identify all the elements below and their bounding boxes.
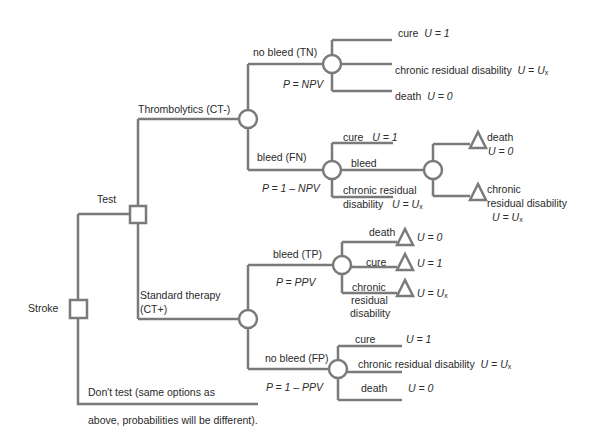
fp-death-label: death bbox=[361, 382, 387, 394]
tp-cure-utility: U = 1 bbox=[417, 257, 442, 269]
tp-cure-terminal bbox=[397, 254, 413, 270]
tp-chance-node bbox=[333, 256, 351, 274]
fn-bleed-crd-utility-text: U = U bbox=[492, 211, 519, 223]
tn-cure-label: cure U = 1 bbox=[398, 27, 450, 39]
tn-cure-text: cure bbox=[398, 27, 418, 39]
tp-death-label: death bbox=[369, 226, 395, 238]
fp-crd-text: chronic residual disability bbox=[358, 358, 475, 370]
tn-cure-utility: U = 1 bbox=[424, 27, 449, 39]
tn-chance-node bbox=[323, 55, 341, 73]
fn-death-terminal bbox=[470, 132, 486, 148]
tn-probability: P = NPV bbox=[283, 78, 323, 90]
standard-label-line2: (CT+) bbox=[140, 303, 167, 315]
fp-crd-label: chronic residual disability U = Ux bbox=[358, 358, 511, 373]
fp-crd-utility: U = U bbox=[481, 358, 508, 370]
tn-crd-label: chronic residual disability U = Ux bbox=[395, 64, 548, 79]
stroke-trunk bbox=[78, 214, 258, 404]
tp-death-terminal bbox=[397, 229, 413, 245]
tn-death-text: death bbox=[395, 90, 421, 102]
stroke-decision-node bbox=[70, 300, 87, 318]
dont-test-line2: above, probabilities will be different). bbox=[88, 414, 258, 426]
subscript-x: x bbox=[508, 363, 512, 370]
fn-bleed-crd-line2: residual disability bbox=[487, 197, 567, 209]
tp-cure-label: cure bbox=[366, 256, 386, 268]
tp-crd-utility-text: U = U bbox=[417, 287, 444, 299]
stroke-label: Stroke bbox=[28, 302, 58, 314]
tp-crd-line3: disability bbox=[350, 307, 390, 319]
tp-label: bleed (TP) bbox=[273, 248, 322, 260]
fn-crd-terminal bbox=[470, 184, 486, 200]
fp-probability: P = 1 – PPV bbox=[266, 381, 323, 393]
fp-cure-label: cure bbox=[355, 333, 375, 345]
test-decision-node bbox=[130, 206, 146, 223]
fn-crd-line1: chronic residual bbox=[343, 184, 417, 196]
fn-bleed-label: bleed bbox=[351, 157, 377, 169]
thrombolytics-label: Thrombolytics (CT-) bbox=[138, 103, 230, 115]
fn-crd-utility: U = U bbox=[392, 198, 419, 210]
dont-test-line1: Don't test (same options as bbox=[88, 386, 215, 398]
tn-death-label: death U = 0 bbox=[395, 90, 453, 102]
fn-probability: P = 1 – NPV bbox=[262, 182, 320, 194]
tp-death-utility: U = 0 bbox=[417, 231, 442, 243]
fn-chance-node bbox=[323, 161, 341, 179]
subscript-x: x bbox=[444, 292, 448, 299]
subscript-x: x bbox=[545, 69, 549, 76]
standard-label-line1: Standard therapy bbox=[140, 289, 221, 301]
subscript-x: x bbox=[519, 216, 523, 223]
fn-cure-label: cure U = 1 bbox=[343, 131, 398, 143]
fn-cure-utility: U = 1 bbox=[372, 131, 397, 143]
thrombolytics-chance-node bbox=[239, 110, 257, 128]
tn-crd-utility: U = U bbox=[518, 64, 545, 76]
tp-crd-utility: U = Ux bbox=[417, 287, 448, 302]
fn-label: bleed (FN) bbox=[257, 151, 307, 163]
fp-death-utility: U = 0 bbox=[408, 382, 433, 394]
tn-label: no bleed (TN) bbox=[253, 46, 317, 58]
fn-bleed-death-label: death bbox=[487, 131, 513, 143]
fn-bleed-crd-utility: U = Ux bbox=[492, 211, 523, 226]
tn-death-utility: U = 0 bbox=[427, 90, 452, 102]
fn-probability-text: P = 1 – NPV bbox=[262, 182, 320, 194]
fp-cure-utility: U = 1 bbox=[406, 333, 431, 345]
fn-crd-line2: disability U = Ux bbox=[343, 198, 423, 213]
fn-bleed-death-utility: U = 0 bbox=[488, 145, 513, 157]
fp-label: no bleed (FP) bbox=[265, 352, 329, 364]
fp-chance-node bbox=[329, 360, 347, 378]
subscript-x: x bbox=[419, 203, 423, 210]
standard-chance-node bbox=[239, 310, 257, 328]
fn-crd-text2: disability bbox=[343, 198, 383, 210]
fn-cure-text: cure bbox=[343, 131, 363, 143]
test-label: Test bbox=[97, 193, 116, 205]
fn-bleed-chance-node bbox=[424, 161, 442, 179]
tp-probability: P = PPV bbox=[276, 276, 316, 288]
tn-crd-text: chronic residual disability bbox=[395, 64, 512, 76]
tp-crd-terminal bbox=[397, 280, 413, 296]
tp-crd-line2: residual bbox=[351, 294, 388, 306]
tp-crd-line1: chronic bbox=[352, 281, 386, 293]
fn-bleed-crd-line1: chronic bbox=[487, 183, 521, 195]
